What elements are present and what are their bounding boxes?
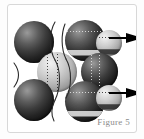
figure-caption: Figure 5 [97, 117, 130, 127]
sphere-dark-bottom-left [14, 79, 54, 121]
sphere-light-bottom-right [96, 85, 122, 111]
sphere-lattice [8, 5, 137, 133]
figure-screenshot: Figure 5 [0, 0, 144, 139]
figure-frame: Figure 5 [7, 4, 137, 133]
latitude-lines-icon [96, 85, 122, 111]
